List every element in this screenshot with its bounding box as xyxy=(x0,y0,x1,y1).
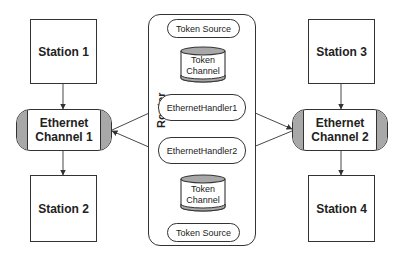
ethernet-handler-1: EthernetHandler1 xyxy=(158,94,246,121)
token-channel-top-line1: Token xyxy=(180,55,226,66)
channel-cap-right xyxy=(376,110,387,150)
token-channel-bottom-line2: Channel xyxy=(180,195,226,206)
station-4: Station 4 xyxy=(308,175,375,242)
token-source-bottom: Token Source xyxy=(167,223,240,242)
station-2-label: Station 2 xyxy=(38,202,89,216)
token-channel-bottom-label: Token Channel xyxy=(180,184,226,206)
channel-1-label-line2: Channel 1 xyxy=(35,130,92,144)
ethernet-handler-1-label: EthernetHandler1 xyxy=(167,103,238,113)
channel-cap-right xyxy=(100,110,111,150)
channel-2-label-line2: Channel 2 xyxy=(311,130,368,144)
token-channel-bottom-line1: Token xyxy=(180,184,226,195)
channel-cap-left xyxy=(17,110,28,150)
station-3: Station 3 xyxy=(308,19,375,84)
ethernet-channel-2: Ethernet Channel 2 xyxy=(292,109,388,151)
station-1-label: Station 1 xyxy=(38,45,89,59)
token-source-top-label: Token Source xyxy=(176,24,231,34)
ethernet-channel-1: Ethernet Channel 1 xyxy=(16,109,112,151)
channel-1-label-line1: Ethernet xyxy=(35,116,92,130)
channel-2-label-line1: Ethernet xyxy=(311,116,368,130)
station-2: Station 2 xyxy=(30,175,97,242)
ethernet-handler-2: EthernetHandler2 xyxy=(158,137,246,164)
token-channel-top-label: Token Channel xyxy=(180,55,226,77)
station-1: Station 1 xyxy=(30,19,97,84)
token-source-bottom-label: Token Source xyxy=(176,228,231,238)
token-channel-top-line2: Channel xyxy=(180,66,226,77)
ethernet-handler-2-label: EthernetHandler2 xyxy=(167,146,238,156)
station-4-label: Station 4 xyxy=(316,202,367,216)
token-source-top: Token Source xyxy=(167,19,240,38)
station-3-label: Station 3 xyxy=(316,45,367,59)
channel-cap-left xyxy=(293,110,304,150)
